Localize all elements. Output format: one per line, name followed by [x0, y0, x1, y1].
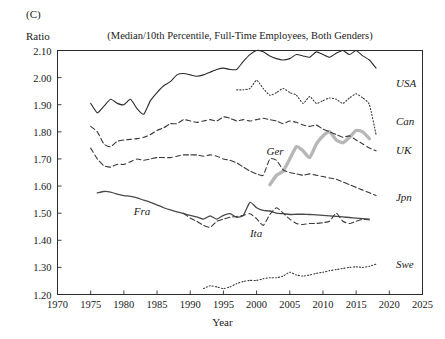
series-line-usa	[91, 50, 376, 114]
series-line-ita	[184, 208, 370, 228]
series-line-can	[237, 80, 376, 134]
chart-panel: (C) Ratio (Median/10th Percentile, Full-…	[0, 0, 445, 339]
series-line-swe	[204, 264, 377, 288]
series-label-ger: Ger	[267, 145, 284, 157]
series-label-uk: UK	[396, 144, 411, 156]
series-line-uk	[91, 117, 376, 151]
y-tick-label: 1.90	[18, 99, 52, 110]
series-label-usa: USA	[396, 77, 416, 89]
tick-marks	[58, 51, 423, 295]
y-tick-label: 1.50	[18, 208, 52, 219]
y-tick-label: 1.60	[18, 181, 52, 192]
y-tick-label: 1.40	[18, 235, 52, 246]
x-axis-title: Year	[0, 316, 445, 328]
series-line-jpn	[91, 148, 376, 195]
series-label-can: Can	[396, 115, 414, 127]
y-tick-label: 1.30	[18, 262, 52, 273]
x-tick-label: 2025	[403, 299, 443, 310]
series-label-jpn: Jpn	[396, 191, 412, 203]
data-series-group	[91, 50, 376, 288]
chart-canvas	[0, 0, 445, 339]
y-tick-label: 1.80	[18, 126, 52, 137]
y-tick-label: 1.70	[18, 153, 52, 164]
series-label-ita: Ita	[250, 227, 262, 239]
series-label-swe: Swe	[396, 258, 414, 270]
y-tick-label: 2.00	[18, 72, 52, 83]
series-label-fra: Fra	[134, 205, 151, 217]
y-tick-label: 2.10	[18, 45, 52, 56]
